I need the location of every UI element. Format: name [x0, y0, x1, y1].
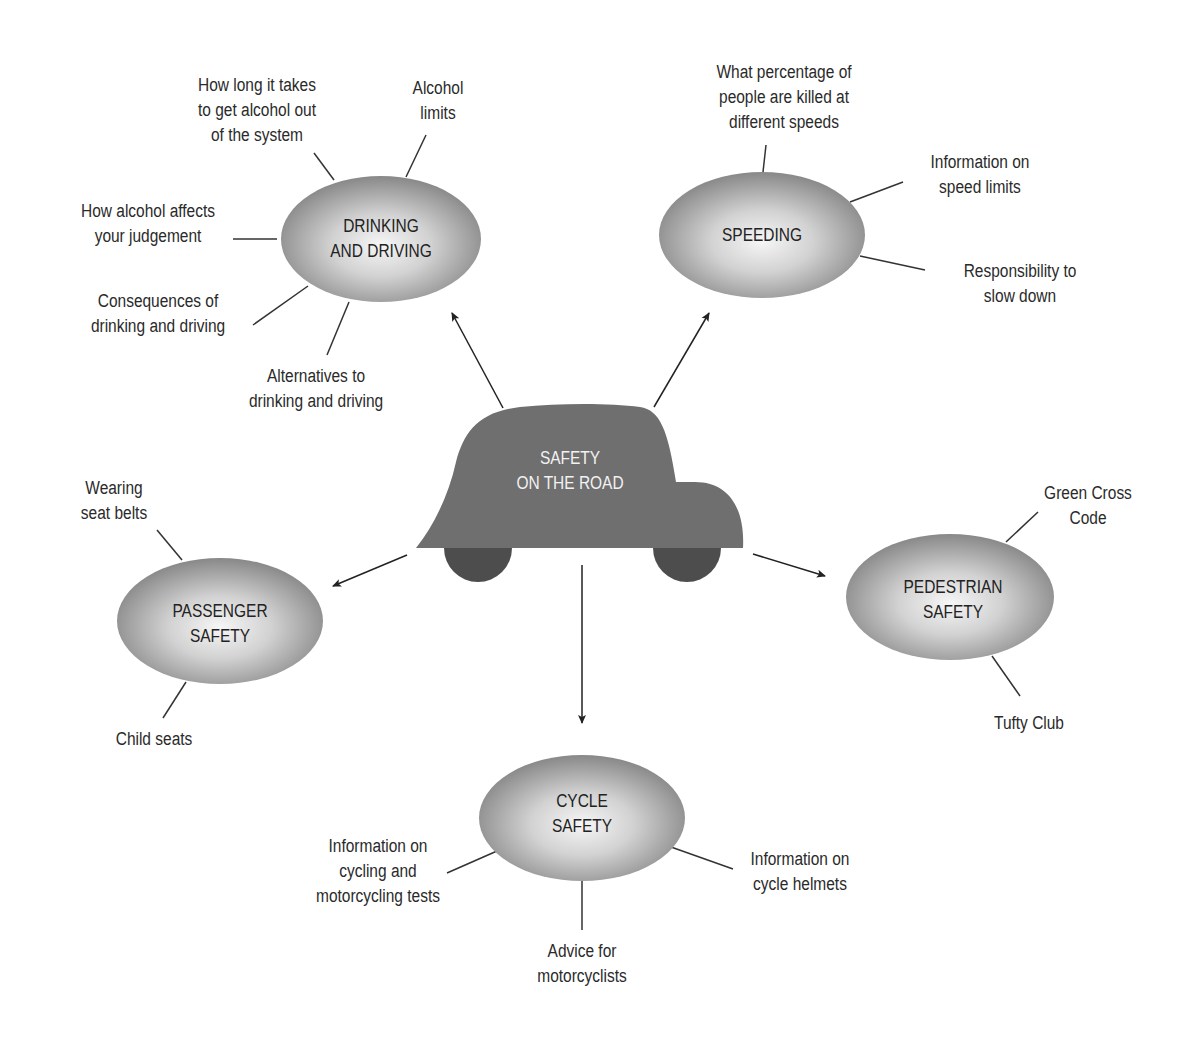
subtopic-line: your judgement	[62, 224, 234, 249]
subtopic-line: Information on	[292, 834, 464, 859]
subtopic-line: Consequences of	[72, 289, 244, 314]
topic-cycle-safety: CYCLE SAFETY	[496, 789, 668, 839]
topic-line: AND DRIVING	[295, 239, 467, 264]
subtopic-speed-limits: Information on speed limits	[894, 150, 1066, 200]
subtopic-line: different speeds	[698, 110, 870, 135]
subtopic-line: Code	[1036, 506, 1139, 531]
subtopic-alternatives: Alternatives to drinking and driving	[230, 364, 402, 414]
topic-line: SAFETY	[867, 600, 1039, 625]
subtopic-motorcyclist-advice: Advice for motorcyclists	[496, 939, 668, 989]
center-topic-line-2: ON THE ROAD	[484, 471, 656, 496]
subtopic-line: drinking and driving	[230, 389, 402, 414]
topic-line: SPEEDING	[676, 223, 848, 248]
subtopic-fatality-percentage: What percentage of people are killed at …	[698, 60, 870, 135]
topic-passenger-safety: PASSENGER SAFETY	[134, 599, 306, 649]
subtopic-line: Advice for	[496, 939, 668, 964]
topic-line: PEDESTRIAN	[867, 575, 1039, 600]
topic-line: PASSENGER	[134, 599, 306, 624]
subtopic-line: motorcyclists	[496, 964, 668, 989]
subtopic-line: people are killed at	[698, 85, 870, 110]
subtopic-cycling-tests: Information on cycling and motorcycling …	[292, 834, 464, 909]
subtopic-line: speed limits	[894, 175, 1066, 200]
subtopic-line: Information on	[714, 847, 886, 872]
subtopic-line: What percentage of	[698, 60, 870, 85]
subtopic-consequences: Consequences of drinking and driving	[72, 289, 244, 339]
subtopic-green-cross-code: Green Cross Code	[1036, 481, 1139, 531]
subtopic-line: cycle helmets	[714, 872, 886, 897]
subtopic-alcohol-judgement: How alcohol affects your judgement	[62, 199, 234, 249]
center-topic-line-1: SAFETY	[484, 446, 656, 471]
subtopic-line: seat belts	[71, 501, 157, 526]
subtopic-child-seats: Child seats	[94, 727, 214, 752]
subtopic-line: How long it takes	[171, 73, 343, 98]
subtopic-line: Information on	[894, 150, 1066, 175]
topic-line: SAFETY	[134, 624, 306, 649]
subtopic-line: Alternatives to	[230, 364, 402, 389]
subtopic-line: to get alcohol out	[171, 98, 343, 123]
subtopic-line: Wearing	[71, 476, 157, 501]
subtopic-seat-belts: Wearing seat belts	[71, 476, 157, 526]
subtopic-line: Child seats	[94, 727, 214, 752]
subtopic-line: cycling and	[292, 859, 464, 884]
subtopic-alcohol-limits: Alcohol limits	[395, 76, 481, 126]
topic-speeding: SPEEDING	[676, 223, 848, 248]
subtopic-line: Alcohol	[395, 76, 481, 101]
topic-drinking-and-driving: DRINKING AND DRIVING	[295, 214, 467, 264]
subtopic-line: Tufty Club	[977, 711, 1080, 736]
subtopic-line: Responsibility to	[934, 259, 1106, 284]
subtopic-line: limits	[395, 101, 481, 126]
mind-map-diagram: SAFETY ON THE ROAD DRINKING AND DRIVING …	[0, 0, 1197, 1047]
subtopic-alcohol-elimination-time: How long it takes to get alcohol out of …	[171, 73, 343, 148]
subtopic-line: of the system	[171, 123, 343, 148]
subtopic-line: How alcohol affects	[62, 199, 234, 224]
topic-pedestrian-safety: PEDESTRIAN SAFETY	[867, 575, 1039, 625]
topic-line: CYCLE	[496, 789, 668, 814]
subtopic-cycle-helmets: Information on cycle helmets	[714, 847, 886, 897]
topic-line: DRINKING	[295, 214, 467, 239]
subtopic-line: drinking and driving	[72, 314, 244, 339]
subtopic-line: motorcycling tests	[292, 884, 464, 909]
topic-line: SAFETY	[496, 814, 668, 839]
subtopic-tufty-club: Tufty Club	[977, 711, 1080, 736]
center-topic-label: SAFETY ON THE ROAD	[484, 446, 656, 496]
subtopic-line: Green Cross	[1036, 481, 1139, 506]
subtopic-line: slow down	[934, 284, 1106, 309]
subtopic-slow-down: Responsibility to slow down	[934, 259, 1106, 309]
